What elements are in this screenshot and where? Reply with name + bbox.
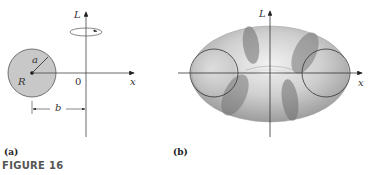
x-axis-label-a: x: [130, 76, 136, 87]
origin-label: 0: [75, 76, 81, 87]
distance-label: b: [55, 102, 61, 113]
figure-caption: FIGURE 16: [2, 160, 64, 171]
x-axis-label-b: x: [358, 77, 364, 88]
radius-label: a: [32, 54, 38, 65]
l-axis-label-b: L: [259, 8, 266, 19]
panel-b: [178, 11, 362, 137]
panel-b-label: (b): [173, 147, 188, 157]
panel-a-label: (a): [4, 147, 18, 157]
l-axis-label-a: L: [74, 9, 81, 20]
figure-16: L x 0 a R b (a) L x (b) FIGURE 16: [0, 0, 368, 175]
panel-a: [8, 12, 134, 137]
region-label: R: [18, 76, 26, 87]
